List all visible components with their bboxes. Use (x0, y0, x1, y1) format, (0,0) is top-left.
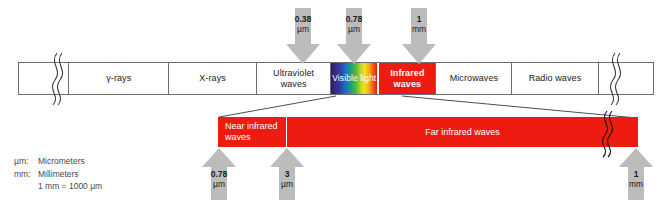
arrow-down-icon (402, 8, 436, 64)
units-legend: µm:Micrometers mm:Millimeters 1 mm = 100… (14, 155, 102, 193)
spectrum-segment-lead-out (599, 63, 654, 94)
arrow-up-icon (202, 148, 236, 200)
spectrum-segment-visible-light: Visible light (331, 63, 379, 94)
spectrum-segment-x-rays: X-rays (169, 63, 257, 94)
spectrum-segment-infrared: Infraredwaves (379, 63, 436, 94)
legend-key-micrometers: µm: (14, 155, 38, 168)
callout-arrow-0-78-um-lower: 0.78 µm (202, 148, 236, 200)
infrared-segment-near-label: Near infraredwaves (218, 121, 278, 143)
callout-arrow-1-mm: 1 mm (402, 8, 436, 64)
spectrum-segment-lead-in (19, 63, 69, 94)
spectrum-segment-infrared-label: Infraredwaves (390, 68, 424, 90)
spectrum-segment-ultraviolet-label: Ultravioletwaves (273, 68, 314, 90)
arrow-up-icon (619, 148, 653, 200)
callout-arrow-0-78-um: 0.78 µm (337, 8, 371, 64)
infrared-segment-near: Near infraredwaves (218, 117, 287, 147)
spectrum-segment-visible-light-label: Visible light (332, 73, 376, 84)
legend-row-millimeters: mm:Millimeters (14, 168, 102, 181)
spectrum-segment-radio-waves-label: Radio waves (529, 73, 582, 84)
spectrum-segment-gamma-rays: γ-rays (69, 63, 169, 94)
infrared-detail-bar: Near infraredwaves Far infrared waves (218, 117, 638, 147)
spectrum-segment-gamma-rays-label: γ-rays (106, 73, 131, 84)
infrared-segment-far: Far infrared waves (287, 117, 638, 147)
spectrum-segment-microwaves-label: Microwaves (450, 73, 499, 84)
callout-arrow-3-um: 3 µm (270, 148, 304, 200)
spectrum-segment-x-rays-label: X-rays (199, 73, 226, 84)
infrared-segment-far-label: Far infrared waves (425, 127, 500, 138)
callout-arrow-1-mm-lower: 1 mm (619, 148, 653, 200)
arrow-down-icon (286, 8, 320, 64)
arrow-up-icon (270, 148, 304, 200)
legend-row-conversion: 1 mm = 1000 µm (14, 180, 102, 193)
arrow-down-icon (337, 8, 371, 64)
legend-text-conversion: 1 mm = 1000 µm (38, 181, 102, 191)
legend-text-micrometers: Micrometers (38, 156, 85, 166)
main-spectrum-bar: γ-rays X-rays Ultravioletwaves Visible l… (18, 62, 654, 95)
legend-text-millimeters: Millimeters (38, 169, 79, 179)
spectrum-segment-microwaves: Microwaves (436, 63, 512, 94)
spectrum-segment-radio-waves: Radio waves (512, 63, 598, 94)
legend-row-micrometers: µm:Micrometers (14, 155, 102, 168)
spectrum-segment-ultraviolet: Ultravioletwaves (257, 63, 331, 94)
electromagnetic-spectrum-diagram: γ-rays X-rays Ultravioletwaves Visible l… (0, 0, 672, 209)
callout-arrow-0-38-um: 0.38 µm (286, 8, 320, 64)
legend-key-millimeters: mm: (14, 168, 38, 181)
